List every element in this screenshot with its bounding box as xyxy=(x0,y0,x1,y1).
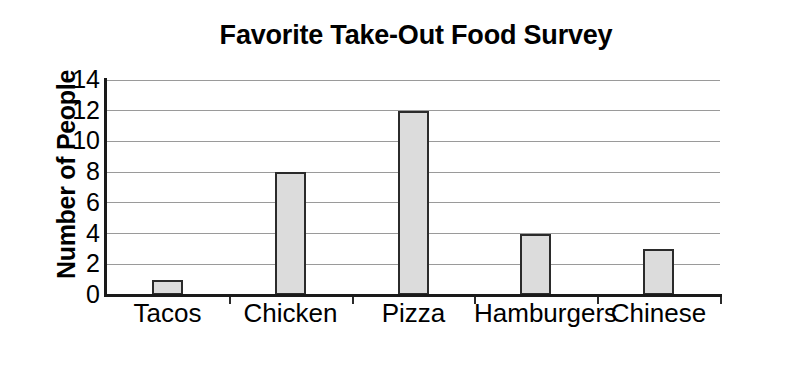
y-axis-tick-label: 12 xyxy=(54,98,100,123)
plot-area xyxy=(106,80,720,295)
bar xyxy=(520,234,551,295)
y-axis-tick-label: 10 xyxy=(54,128,100,153)
x-axis-tick-label: Chicken xyxy=(229,298,352,328)
chart-title: Favorite Take-Out Food Survey xyxy=(106,20,726,51)
y-axis-tick-label: 2 xyxy=(54,251,100,276)
bar-chart-figure: Favorite Take-Out Food Survey Number of … xyxy=(0,0,786,373)
y-axis-tick-labels: 02468101214 xyxy=(48,80,100,295)
bar xyxy=(152,280,183,295)
gridline xyxy=(106,80,720,81)
x-axis-line xyxy=(104,294,722,297)
y-axis-tick-label: 8 xyxy=(54,159,100,184)
y-axis-tick-label: 6 xyxy=(54,190,100,215)
x-axis-tick-label: Hamburgers xyxy=(474,298,597,328)
y-axis-tick-label: 4 xyxy=(54,221,100,246)
bar xyxy=(398,111,429,295)
bar xyxy=(275,172,306,295)
x-axis-tick-label: Pizza xyxy=(352,298,475,328)
y-axis-line xyxy=(104,78,107,297)
bar xyxy=(643,249,674,295)
x-axis-tick-label: Tacos xyxy=(106,298,229,328)
x-axis-tick-label: Chinese xyxy=(597,298,720,328)
y-axis-tick-label: 0 xyxy=(54,282,100,307)
x-axis-tick xyxy=(720,297,722,304)
scan-bleed-artifact xyxy=(120,0,540,10)
y-axis-tick-label: 14 xyxy=(54,67,100,92)
